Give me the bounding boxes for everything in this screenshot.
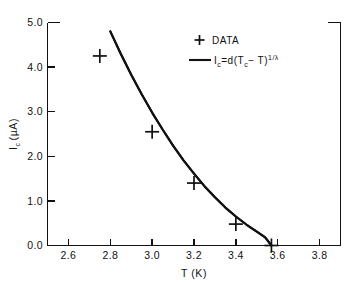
- y-tick-label: 1.0: [27, 195, 43, 207]
- y-axis-title-unit: (µA): [7, 118, 19, 140]
- x-axis-title: T (K): [181, 267, 207, 279]
- y-axis-title-subscript: c: [14, 142, 21, 146]
- x-tick-label: 2.8: [102, 249, 118, 261]
- y-tick-label: 2.0: [27, 150, 43, 162]
- fit-exponent: 1/λ: [268, 54, 279, 61]
- legend-label-data: DATA: [212, 35, 239, 46]
- y-tick-label: 0.0: [27, 239, 43, 251]
- x-tick-label: 3.4: [228, 249, 244, 261]
- figure-container: 5.0 4.0 3.0 2.0 1.0 0.0 2.6 2.8 3.0 3.2 …: [0, 0, 354, 286]
- chart-background: [0, 0, 354, 286]
- x-tick-label: 3.8: [312, 249, 328, 261]
- fit-equals-d: =d(: [221, 55, 237, 66]
- x-tick-label: 2.6: [61, 249, 77, 261]
- x-tick-label: 3.2: [186, 249, 202, 261]
- fit-minus-t: − T): [248, 55, 268, 66]
- y-tick-label: 5.0: [27, 16, 43, 28]
- y-tick-label: 3.0: [27, 105, 43, 117]
- fit-symbol-tc: T: [238, 55, 245, 66]
- critical-current-vs-temperature-chart: 5.0 4.0 3.0 2.0 1.0 0.0 2.6 2.8 3.0 3.2 …: [0, 0, 354, 286]
- y-tick-label: 4.0: [27, 61, 43, 73]
- x-tick-label: 3.0: [144, 249, 160, 261]
